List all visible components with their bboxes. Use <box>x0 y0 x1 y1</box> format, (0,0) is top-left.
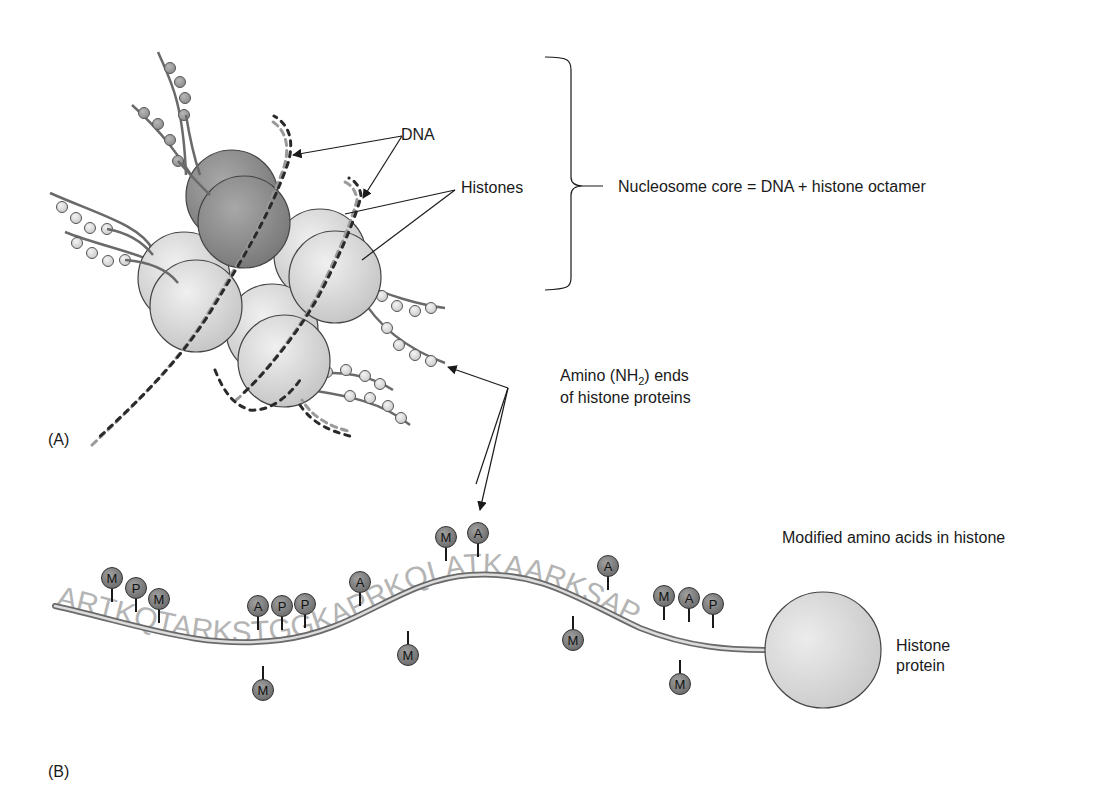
svg-text:M: M <box>258 683 269 698</box>
histone-protein-label: Histone <box>896 636 950 656</box>
svg-text:P: P <box>278 599 287 614</box>
amino-ends-label-line2: of histone proteins <box>560 388 691 408</box>
svg-text:M: M <box>659 589 670 604</box>
svg-text:M: M <box>403 648 414 663</box>
modification-m-icon: M <box>670 660 691 695</box>
svg-text:P: P <box>132 581 141 596</box>
svg-text:A: A <box>604 559 613 574</box>
dna-arrow-icon <box>363 136 402 198</box>
svg-text:A: A <box>254 599 263 614</box>
svg-text:P: P <box>709 597 718 612</box>
figure-graphics: ARTKQTARKSTGGKAPRKQLATKAARKSAP MPMAPPMAM… <box>0 0 1108 800</box>
svg-text:M: M <box>568 633 579 648</box>
histone-sphere-icon <box>238 315 330 407</box>
histone-tail-detail: ARTKQTARKSTGGKAPRKQLATKAARKSAP MPMAPPMAM… <box>54 523 881 709</box>
svg-text:M: M <box>154 592 165 607</box>
histones-label: Histones <box>461 178 523 198</box>
histone-tail-icon <box>310 390 410 425</box>
modified-amino-acids-label: Modified amino acids in histone <box>782 528 1005 548</box>
nucleosome-figure: ARTKQTARKSTGGKAPRKQLATKAARKSAP MPMAPPMAM… <box>0 0 1108 800</box>
svg-text:P: P <box>301 597 310 612</box>
modification-m-icon: M <box>253 666 274 701</box>
histone-protein-sphere-icon <box>765 592 881 708</box>
svg-text:A: A <box>474 526 483 541</box>
dna-arrow-icon <box>293 136 402 155</box>
modification-m-icon: M <box>563 616 584 651</box>
modification-m-icon: M <box>398 631 419 666</box>
nucleosome-core-label: Nucleosome core = DNA + histone octamer <box>618 177 926 197</box>
histone-sphere-icon <box>150 260 242 352</box>
amino-acid-sequence: ARTKQTARKSTGGKAPRKQLATKAARKSAP <box>54 547 646 648</box>
amino-arrow-up-icon <box>448 367 508 388</box>
svg-text:A: A <box>356 575 365 590</box>
amino-pointer-line <box>476 388 508 484</box>
modification-m-icon: M <box>654 586 675 621</box>
histone-protein-label-line2: protein <box>896 656 945 676</box>
dna-label: DNA <box>401 125 435 145</box>
histone-sphere-icon <box>289 231 381 323</box>
svg-text:M: M <box>675 677 686 692</box>
nucleosome-core <box>50 52 445 445</box>
amino-arrow-down-icon <box>480 388 508 510</box>
panel-a-label: (A) <box>48 430 69 450</box>
panel-b-label: (B) <box>48 762 69 782</box>
svg-text:M: M <box>441 530 452 545</box>
modification-p-icon: P <box>703 594 724 629</box>
bracket-icon <box>545 57 603 290</box>
modification-a-icon: A <box>679 588 700 623</box>
svg-text:M: M <box>107 571 118 586</box>
svg-text:A: A <box>685 591 694 606</box>
